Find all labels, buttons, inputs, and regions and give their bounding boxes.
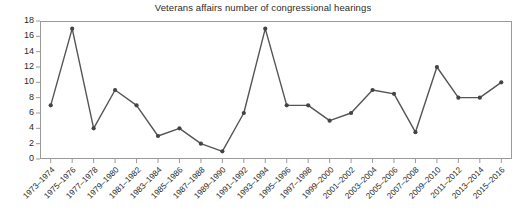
chart-container: Veterans affairs number of congressional… — [0, 0, 526, 217]
x-axis-tick-labels: 1973–19741975–19761977–19781979–19801981… — [0, 0, 526, 217]
